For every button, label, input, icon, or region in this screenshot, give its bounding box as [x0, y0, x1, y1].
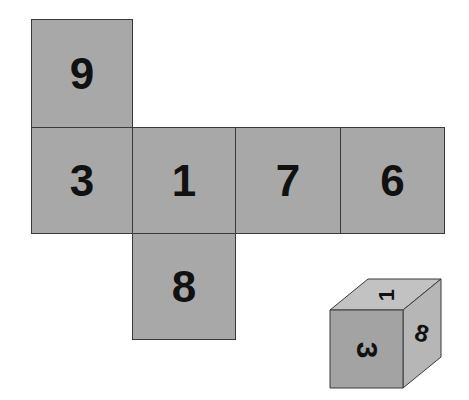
- cube-front-number: 3: [351, 342, 384, 359]
- folded-cube: 3 1 8: [0, 0, 469, 400]
- cube-top-number: 1: [374, 289, 399, 301]
